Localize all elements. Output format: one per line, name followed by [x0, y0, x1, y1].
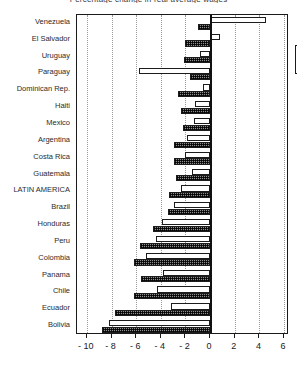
category-label: Colombia [38, 254, 70, 262]
axis-tick-label: - 8 [105, 341, 116, 351]
bar-brazil-1998 [168, 209, 210, 215]
category-label: Ecuador [42, 304, 70, 312]
bar-latin-america-1998 [169, 192, 210, 198]
bar-costa-rica-1997 [185, 152, 210, 158]
category-label: Dominican Rep. [17, 85, 70, 93]
bar-venezuela-1997 [210, 17, 265, 23]
bar-ecuador-1997 [171, 303, 210, 309]
axis-tick [283, 334, 284, 338]
bar-uruguay-1998 [184, 57, 210, 63]
axis-tick [258, 334, 259, 338]
bar-colombia-1998 [134, 259, 210, 265]
bar-latin-america-1997 [181, 185, 211, 191]
bar-costa-rica-1998 [174, 158, 210, 164]
bar-peru-1998 [140, 243, 210, 249]
bar-ecuador-1998 [115, 310, 210, 316]
axis-tick-label: 2 [231, 341, 236, 351]
bar-brazil-1997 [174, 202, 210, 208]
axis-tick-label: - 2 [179, 341, 190, 351]
category-label: Argentina [38, 136, 70, 144]
axis-tick [135, 334, 136, 338]
axis-tick [234, 334, 235, 338]
bar-panama-1997 [163, 270, 210, 276]
axis-tick-label: 0 [207, 341, 212, 351]
category-label: Paraguay [38, 68, 70, 76]
bar-dominican-rep--1998 [178, 91, 210, 97]
bar-panama-1998 [141, 276, 210, 282]
bar-paraguay-1997 [139, 68, 210, 74]
bar-guatemala-1997 [192, 169, 210, 175]
axis-tick [160, 334, 161, 338]
axis-tick-label: - 10 [78, 341, 94, 351]
bar-colombia-1997 [146, 253, 210, 259]
chart-root: Percentage change in real average wages … [0, 0, 297, 368]
category-label: Peru [54, 237, 70, 245]
axis-tick [111, 334, 112, 338]
bar-paraguay-1998 [190, 74, 210, 80]
axis-tick-label: 4 [256, 341, 261, 351]
plot-area: 1997 1998 [76, 14, 288, 334]
bar-haiti-1997 [195, 101, 210, 107]
axis-tick [184, 334, 185, 338]
legend: 1997 1998 [295, 45, 297, 74]
category-label: Guatemala [33, 170, 70, 178]
bar-dominican-rep--1997 [203, 84, 210, 90]
category-label: Panama [42, 271, 70, 279]
category-axis-labels: VenezuelaEl SalvadorUruguayParaguayDomin… [0, 14, 73, 334]
bar-honduras-1998 [153, 226, 210, 232]
bar-argentina-1997 [187, 135, 210, 141]
category-label: Chile [53, 287, 70, 295]
axis-tick [86, 334, 87, 338]
bar-venezuela-1998 [198, 24, 210, 30]
bar-mexico-1998 [183, 125, 210, 131]
axis-tick-label: 6 [281, 341, 286, 351]
bar-chile-1997 [157, 286, 210, 292]
category-label: Uruguay [42, 52, 70, 60]
category-label: El Salvador [32, 35, 70, 43]
bar-argentina-1998 [174, 142, 210, 148]
axis-tick-label: - 4 [155, 341, 166, 351]
bar-el-salvador-1998 [185, 40, 210, 46]
category-label: Venezuela [35, 18, 70, 26]
bar-bolivia-1997 [109, 320, 210, 326]
bar-honduras-1997 [162, 219, 210, 225]
category-label: Mexico [46, 119, 70, 127]
bar-peru-1997 [156, 236, 210, 242]
category-label: Honduras [37, 220, 70, 228]
category-label: Costa Rica [33, 153, 70, 161]
bar-bolivia-1998 [102, 327, 210, 333]
value-axis: - 10- 8- 6- 4- 20246 [76, 334, 288, 360]
category-label: Haiti [55, 102, 70, 110]
bar-mexico-1997 [194, 118, 210, 124]
chart-title: Percentage change in real average wages [0, 0, 297, 3]
bars-layer [77, 15, 287, 333]
axis-tick-label: - 6 [130, 341, 141, 351]
bar-uruguay-1997 [200, 51, 210, 57]
category-label: LATIN AMERICA [13, 186, 70, 194]
bar-chile-1998 [134, 293, 210, 299]
bar-guatemala-1998 [176, 175, 211, 181]
category-label: Bolivia [48, 321, 70, 329]
bar-haiti-1998 [181, 108, 211, 114]
axis-tick [209, 334, 210, 338]
zero-axis-line [210, 15, 212, 333]
category-label: Brazil [51, 203, 70, 211]
